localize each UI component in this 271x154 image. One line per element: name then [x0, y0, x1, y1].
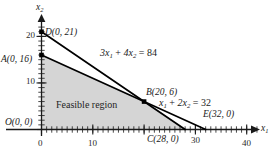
y-tick-label-10: 10 [26, 77, 35, 86]
figure-canvas [0, 0, 271, 154]
point-label-C: C(28, 0) [147, 135, 179, 145]
y-axis-arrowhead [38, 14, 46, 22]
point-label-A: A(0, 16) [1, 55, 32, 65]
y-axis-label: x2 [36, 3, 43, 13]
x-axis-label-text: x1 [261, 123, 268, 133]
feasible-region-label: Feasible region [56, 100, 117, 110]
x-axis-label: x1 [261, 124, 268, 134]
vertex-marker-D [39, 29, 44, 34]
linear-programming-figure: x2 x1 D(0, 21) A(0, 16) O(0, 0) B(20, 6)… [0, 0, 271, 154]
vertex-marker-A [39, 53, 44, 58]
point-label-O: O(0, 0) [5, 118, 32, 128]
vertex-marker-B [142, 99, 147, 104]
x-tick-label-30: 30 [191, 136, 200, 145]
y-axis-label-text: x2 [36, 2, 43, 12]
equation-label-2: x1 + 2x2 = 32 [159, 98, 211, 108]
x-axis-arrowhead [251, 126, 260, 134]
y-tick-label-20: 20 [26, 31, 35, 40]
point-label-D: D(0, 21) [45, 28, 77, 38]
point-label-E: E(32, 0) [203, 110, 234, 120]
x-tick-label-0: 0 [38, 139, 43, 148]
x-tick-label-40: 40 [242, 139, 251, 148]
equation-label-1: 3x1 + 4x2 = 84 [100, 48, 157, 58]
point-label-B: B(20, 6) [146, 88, 177, 98]
x-tick-label-10: 10 [88, 139, 97, 148]
